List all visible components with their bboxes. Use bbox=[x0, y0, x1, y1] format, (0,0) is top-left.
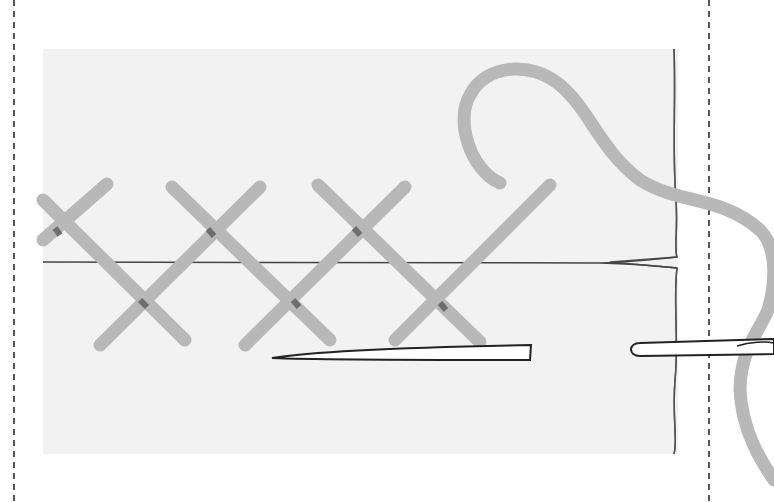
stitch-diagram bbox=[0, 0, 774, 502]
diagram-canvas bbox=[0, 0, 774, 502]
